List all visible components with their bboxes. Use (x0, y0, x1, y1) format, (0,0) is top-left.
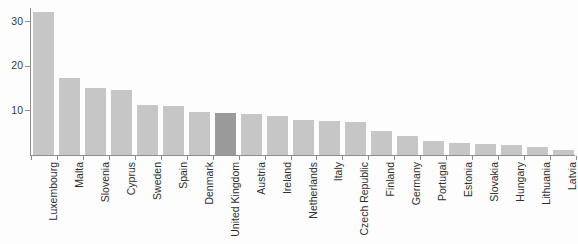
x-axis-tick (394, 156, 395, 160)
bar-finland[interactable] (371, 131, 392, 155)
bar-united-kingdom[interactable] (215, 113, 236, 155)
x-axis-tick (472, 156, 473, 160)
x-axis-tick (31, 156, 32, 160)
x-axis-category-label-text: Austria (256, 162, 267, 195)
x-axis-tick (57, 156, 58, 160)
bar-austria[interactable] (241, 114, 262, 155)
x-axis-tick (109, 156, 110, 160)
bar-italy[interactable] (319, 121, 340, 155)
bar-ireland[interactable] (267, 116, 288, 155)
bar-denmark[interactable] (189, 112, 210, 155)
x-axis-tick (187, 156, 188, 160)
x-axis-category-label-text: Portugal (437, 162, 448, 201)
x-axis-category-label: United Kingdom (230, 162, 241, 237)
x-axis-category-label-text: Netherlands (308, 162, 319, 219)
bar-netherlands[interactable] (293, 120, 314, 155)
x-axis-tick (498, 156, 499, 160)
x-axis-category-label: Italy (333, 162, 344, 181)
x-axis-category-label: Ireland (282, 162, 293, 194)
x-axis-category-label: Austria (256, 162, 267, 195)
x-axis-category-label-text: Cyprus (126, 162, 137, 195)
x-axis-category-label-text: United Kingdom (230, 162, 241, 237)
x-axis-tick (576, 156, 577, 160)
x-axis-category-label-text: Spain (178, 162, 189, 189)
bar-latvia[interactable] (553, 150, 574, 155)
x-axis-category-label: Hungary (515, 162, 526, 202)
x-axis-category-label-text: Luxembourg (48, 162, 59, 220)
x-axis-category-label: Estonia (463, 162, 474, 197)
x-axis-tick (83, 156, 84, 160)
bar-cyprus[interactable] (111, 90, 132, 155)
x-axis-tick (135, 156, 136, 160)
x-axis-category-label: Cyprus (126, 162, 137, 195)
x-axis-tick (368, 156, 369, 160)
x-axis-tick (291, 156, 292, 160)
x-axis-category-label: Slovakia (489, 162, 500, 202)
bar-slovakia[interactable] (475, 144, 496, 155)
x-axis-category-label-text: Estonia (463, 162, 474, 197)
y-axis-tick-label-text: 30 (1, 16, 23, 27)
y-axis-tick-label: 20 (0, 60, 23, 71)
x-axis-category-label-text: Sweden (152, 162, 163, 200)
x-axis-category-label-text: Slovakia (489, 162, 500, 202)
x-axis-tick (524, 156, 525, 160)
x-axis-category-label: Lithuania (541, 162, 552, 205)
x-axis-tick (446, 156, 447, 160)
x-axis-category-label-text: Finland (385, 162, 396, 196)
x-axis-category-label-text: Slovenia (100, 162, 111, 202)
x-axis-tick (161, 156, 162, 160)
x-axis-category-label-text: Denmark (204, 162, 215, 205)
x-axis-category-label: Latvia (567, 162, 578, 190)
x-axis-category-label: Slovenia (100, 162, 111, 202)
bar-slovenia[interactable] (85, 88, 106, 155)
y-axis-tick-label: 10 (0, 105, 23, 116)
x-axis-category-label-text: Lithuania (541, 162, 552, 205)
x-axis-category-label: Czech Republic (359, 162, 370, 236)
x-axis-tick (550, 156, 551, 160)
bars-container (31, 8, 576, 155)
x-axis-category-label: Denmark (204, 162, 215, 205)
x-axis-category-label: Netherlands (308, 162, 319, 219)
x-axis-category-label-text: Latvia (567, 162, 578, 190)
x-axis-category-label-text: Germany (411, 162, 422, 205)
bar-estonia[interactable] (449, 143, 470, 155)
x-axis-category-label-text: Malta (74, 162, 85, 188)
x-axis-category-label: Luxembourg (48, 162, 59, 220)
bar-hungary[interactable] (501, 145, 522, 155)
x-axis-line (30, 155, 575, 156)
x-axis-category-label: Germany (411, 162, 422, 205)
x-axis-category-label-text: Ireland (282, 162, 293, 194)
x-axis-tick (213, 156, 214, 160)
y-axis-tick-label-text: 10 (1, 105, 23, 116)
bar-chart: 102030 LuxembourgMaltaSloveniaCyprusSwed… (0, 0, 578, 244)
x-axis-tick (342, 156, 343, 160)
x-axis-tick (420, 156, 421, 160)
x-axis-category-label: Spain (178, 162, 189, 189)
x-axis-category-label-text: Italy (333, 162, 344, 181)
bar-lithuania[interactable] (527, 147, 548, 155)
x-axis-tick (316, 156, 317, 160)
bar-luxembourg[interactable] (33, 12, 54, 155)
bar-sweden[interactable] (137, 105, 158, 155)
bar-malta[interactable] (59, 78, 80, 155)
x-axis-category-label: Portugal (437, 162, 448, 201)
x-axis-category-label: Sweden (152, 162, 163, 200)
x-axis-category-label-text: Czech Republic (359, 162, 370, 236)
bar-germany[interactable] (397, 136, 418, 155)
category-axis-labels: LuxembourgMaltaSloveniaCyprusSwedenSpain… (31, 162, 576, 244)
bar-spain[interactable] (163, 106, 184, 155)
x-axis-category-label: Malta (74, 162, 85, 188)
x-axis-category-label-text: Hungary (515, 162, 526, 202)
y-axis-tick-label: 30 (0, 16, 23, 27)
x-axis-category-label: Finland (385, 162, 396, 196)
bar-czech-republic[interactable] (345, 122, 366, 155)
bar-portugal[interactable] (423, 141, 444, 155)
y-axis-tick-label-text: 20 (1, 60, 23, 71)
x-axis-tick (239, 156, 240, 160)
x-axis-tick (265, 156, 266, 160)
